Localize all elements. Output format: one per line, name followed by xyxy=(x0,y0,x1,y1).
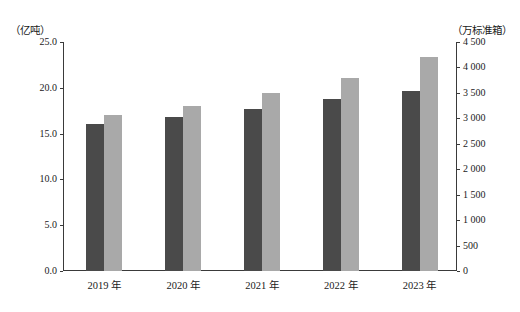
bar-container xyxy=(341,78,359,271)
left-axis-unit-label: （亿吨） xyxy=(10,22,50,37)
x-axis-category-label: 2020 年 xyxy=(166,280,200,292)
bar-container xyxy=(104,115,122,271)
bar-tonnage xyxy=(165,117,183,271)
bar-tonnage xyxy=(244,109,262,271)
right-axis-tick-label: 2 000 xyxy=(463,164,486,174)
bar-container xyxy=(420,57,438,271)
right-axis-tick-label: 2 500 xyxy=(463,139,486,149)
right-axis-tick-mark xyxy=(457,169,460,170)
right-axis-tick-label: 0 xyxy=(463,266,468,276)
x-axis-category-label: 2023 年 xyxy=(403,280,437,292)
right-axis-tick-mark xyxy=(457,195,460,196)
right-axis-line xyxy=(456,42,457,271)
right-axis-tick-label: 3 500 xyxy=(463,88,486,98)
bar-group: 2021 年 xyxy=(244,42,280,271)
right-axis-tick-mark xyxy=(457,67,460,68)
left-axis-tick-mark xyxy=(60,134,63,135)
left-axis-line xyxy=(63,42,64,271)
left-axis-tick-label: 15.0 xyxy=(40,129,58,139)
right-axis-tick-mark xyxy=(457,118,460,119)
left-axis-tick-mark xyxy=(60,271,63,272)
bar-group: 2019 年 xyxy=(86,42,122,271)
right-axis-tick-label: 500 xyxy=(463,241,478,251)
right-axis-tick-label: 4 500 xyxy=(463,37,486,47)
right-axis-tick-label: 4 000 xyxy=(463,62,486,72)
left-axis-tick-label: 0.0 xyxy=(45,266,58,276)
right-axis-tick-label: 3 000 xyxy=(463,113,486,123)
bar-container xyxy=(262,93,280,271)
bar-tonnage xyxy=(323,99,341,271)
right-axis-unit-label: （万标准箱） xyxy=(452,22,512,37)
right-axis-tick-mark xyxy=(457,42,460,43)
left-axis-tick-mark xyxy=(60,179,63,180)
left-axis-tick-label: 20.0 xyxy=(40,83,58,93)
bar-group: 2022 年 xyxy=(323,42,359,271)
bar-container xyxy=(183,106,201,271)
right-axis-tick-mark xyxy=(457,144,460,145)
left-axis-tick-mark xyxy=(60,225,63,226)
x-axis-category-label: 2019 年 xyxy=(88,280,122,292)
bar-group: 2023 年 xyxy=(402,42,438,271)
bar-chart: （亿吨） （万标准箱） 0.05.010.015.020.025.0 05001… xyxy=(0,0,520,312)
right-axis-tick-label: 1 500 xyxy=(463,190,486,200)
right-axis-tick-mark xyxy=(457,220,460,221)
left-axis-tick-label: 5.0 xyxy=(45,220,58,230)
right-axis-tick-mark xyxy=(457,271,460,272)
left-axis-tick-mark xyxy=(60,42,63,43)
right-axis-tick-label: 1 000 xyxy=(463,215,486,225)
left-axis-tick-label: 25.0 xyxy=(40,37,58,47)
left-axis-tick-mark xyxy=(60,88,63,89)
right-axis-tick-mark xyxy=(457,246,460,247)
left-axis-tick-label: 10.0 xyxy=(40,174,58,184)
bar-tonnage xyxy=(402,91,420,271)
plot-area: 0.05.010.015.020.025.0 05001 0001 5002 0… xyxy=(63,42,457,271)
x-axis-category-label: 2022 年 xyxy=(324,280,358,292)
bar-tonnage xyxy=(86,124,104,271)
right-axis-tick-mark xyxy=(457,93,460,94)
bar-group: 2020 年 xyxy=(165,42,201,271)
x-axis-category-label: 2021 年 xyxy=(245,280,279,292)
